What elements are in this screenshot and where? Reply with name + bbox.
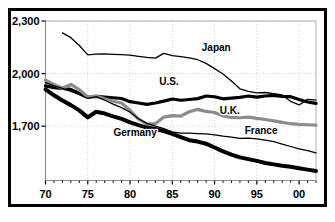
series-label-france: France	[245, 125, 278, 136]
x-tick-label: 85	[166, 188, 178, 200]
y-tick-label: 1,700	[12, 120, 40, 132]
x-tick-label: 75	[82, 188, 94, 200]
series-label-japan: Japan	[202, 42, 231, 53]
y-tick-label: 2,000	[12, 68, 40, 80]
y-tick-label: 2,300	[12, 15, 40, 27]
x-tick-label: 95	[251, 188, 263, 200]
x-tick-label: 00	[293, 188, 305, 200]
series-line-japan	[62, 33, 316, 105]
series-label-us: U.S.	[159, 76, 179, 87]
data-series	[46, 33, 317, 171]
x-axis-tick-labels: 70758085909500	[39, 188, 305, 200]
chart-figure: 1,7002,0002,300 70758085909500 JapanJapa…	[0, 0, 335, 222]
x-tick-label: 80	[124, 188, 136, 200]
series-label-germany: Germany	[113, 127, 157, 138]
y-axis-tick-labels: 1,7002,0002,300	[12, 15, 40, 132]
line-chart: 1,7002,0002,300 70758085909500 JapanJapa…	[0, 0, 335, 222]
x-tick-label: 90	[208, 188, 220, 200]
series-label-uk: U.K.	[220, 105, 240, 116]
axis-ticks	[42, 21, 317, 185]
x-tick-label: 70	[39, 188, 51, 200]
